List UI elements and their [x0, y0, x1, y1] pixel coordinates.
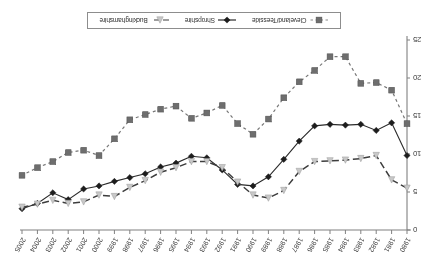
- data-point-square: [219, 102, 225, 108]
- rotated-figure: 0510152025 19801981198219831984198519861…: [0, 0, 429, 266]
- series-cleveland-teesside: [19, 54, 410, 178]
- rate-axis-tick-label: 15: [413, 111, 421, 120]
- data-point-diamond: [358, 121, 364, 127]
- legend-item-label: Cleveland/Teesside: [252, 17, 307, 24]
- year-axis-tick-label: 1997: [136, 237, 150, 254]
- data-point-square: [204, 110, 210, 116]
- year-axis-tick-label: 1986: [306, 237, 320, 254]
- data-point-diamond: [81, 186, 87, 192]
- data-point-diamond: [50, 190, 56, 196]
- chart-plot-area: 0510152025 19801981198219831984198519861…: [0, 0, 429, 266]
- legend-item[interactable]: Cleveland/Teesside: [252, 17, 329, 25]
- data-point-square: [19, 172, 25, 178]
- year-axis-tick-label: 2002: [59, 237, 73, 254]
- legend-item-label: Buckinghamshire: [99, 17, 147, 24]
- year-axis-tick-label: 1990: [244, 237, 258, 254]
- data-point-square: [189, 115, 195, 121]
- year-axis-tick-label: 2003: [44, 237, 58, 254]
- legend-item[interactable]: Shropshire: [185, 17, 237, 25]
- data-point-square: [127, 117, 133, 123]
- data-point-square: [96, 153, 102, 159]
- data-point-diamond: [404, 152, 410, 158]
- data-point-diamond: [389, 120, 395, 126]
- data-point-diamond: [111, 178, 117, 184]
- data-point-square: [112, 136, 118, 142]
- data-point-square: [173, 103, 179, 109]
- data-point-triangle: [142, 177, 148, 183]
- year-axis-tick-label: 2000: [90, 237, 104, 254]
- data-point-square: [358, 80, 364, 86]
- year-axis-tick-label: 1993: [198, 237, 212, 254]
- data-point-square: [389, 87, 395, 93]
- data-point-diamond: [142, 171, 148, 177]
- data-point-square: [65, 150, 71, 156]
- rate-axis-tick-label: 5: [413, 187, 417, 196]
- data-point-triangle: [111, 193, 117, 199]
- series-container: [19, 54, 410, 212]
- year-axis-tick-label: 1989: [260, 237, 274, 254]
- legend-item-label: Shropshire: [185, 17, 215, 24]
- data-point-diamond: [250, 183, 256, 189]
- data-point-square: [235, 121, 241, 127]
- data-point-square: [50, 159, 56, 165]
- data-point-square: [404, 121, 410, 127]
- data-point-triangle: [80, 199, 86, 205]
- data-point-square: [81, 147, 87, 153]
- legend-marker-icon: [217, 17, 237, 25]
- year-axis-tick-label: 1996: [152, 237, 166, 254]
- year-axis-tick-label: 1991: [229, 237, 243, 254]
- data-point-square: [142, 112, 148, 118]
- year-axis-tick-label: 1983: [352, 237, 366, 254]
- data-point-square: [327, 54, 333, 60]
- data-point-square: [35, 165, 41, 171]
- year-axis-tick-label: 1998: [121, 237, 135, 254]
- year-axis-tick-label: 2005: [13, 237, 27, 254]
- data-point-diamond: [342, 122, 348, 128]
- year-axis-tick-label: 2001: [75, 237, 89, 254]
- data-point-diamond: [224, 17, 230, 23]
- data-point-triangle: [404, 185, 410, 191]
- year-axis-tick-label: 1982: [367, 237, 381, 254]
- chart-screenshot: 0510152025 19801981198219831984198519861…: [0, 0, 429, 266]
- data-point-square: [281, 95, 287, 101]
- data-point-square: [373, 80, 379, 86]
- year-axis-tick-label: 1994: [183, 237, 197, 254]
- series-shropshire: [19, 120, 410, 212]
- data-point-square: [250, 131, 256, 137]
- year-axis: 1980198119821983198419851986198719881989…: [13, 230, 412, 254]
- data-point-diamond: [96, 183, 102, 189]
- series-line: [22, 57, 407, 176]
- year-axis-tick-label: 1999: [106, 237, 120, 254]
- data-point-diamond: [127, 174, 133, 180]
- data-point-square: [312, 68, 318, 74]
- legend-marker-icon: [309, 17, 329, 25]
- data-point-square: [266, 116, 272, 122]
- rate-axis-tick-label: 10: [413, 149, 421, 158]
- data-point-square: [316, 18, 322, 24]
- data-point-square: [343, 54, 349, 60]
- rate-axis-tick-label: 20: [413, 73, 421, 82]
- series-buckinghamshire: [19, 152, 410, 210]
- chart-svg: 0510152025 19801981198219831984198519861…: [0, 0, 429, 266]
- chart-legend: Cleveland/TeessideShropshireBuckinghamsh…: [87, 12, 341, 29]
- year-axis-tick-label: 1985: [321, 237, 335, 254]
- data-point-diamond: [327, 121, 333, 127]
- data-point-diamond: [373, 127, 379, 133]
- year-axis-tick-label: 1988: [275, 237, 289, 254]
- rate-axis: 0510152025: [407, 35, 421, 234]
- year-axis-tick-label: 1981: [383, 237, 397, 254]
- data-point-square: [158, 106, 164, 112]
- data-point-triangle: [388, 177, 394, 183]
- year-axis-tick-label: 1987: [290, 237, 304, 254]
- data-point-triangle: [127, 184, 133, 190]
- year-axis-tick-label: 1980: [398, 237, 412, 254]
- year-axis-tick-label: 1995: [167, 237, 181, 254]
- data-point-triangle: [96, 192, 102, 198]
- year-axis-tick-label: 2004: [29, 237, 43, 254]
- series-line: [22, 123, 407, 209]
- legend-marker-icon: [150, 17, 170, 25]
- legend-item[interactable]: Buckinghamshire: [99, 17, 169, 25]
- data-point-square: [296, 79, 302, 85]
- rate-axis-tick-label: 25: [413, 35, 421, 44]
- data-point-triangle: [281, 187, 287, 193]
